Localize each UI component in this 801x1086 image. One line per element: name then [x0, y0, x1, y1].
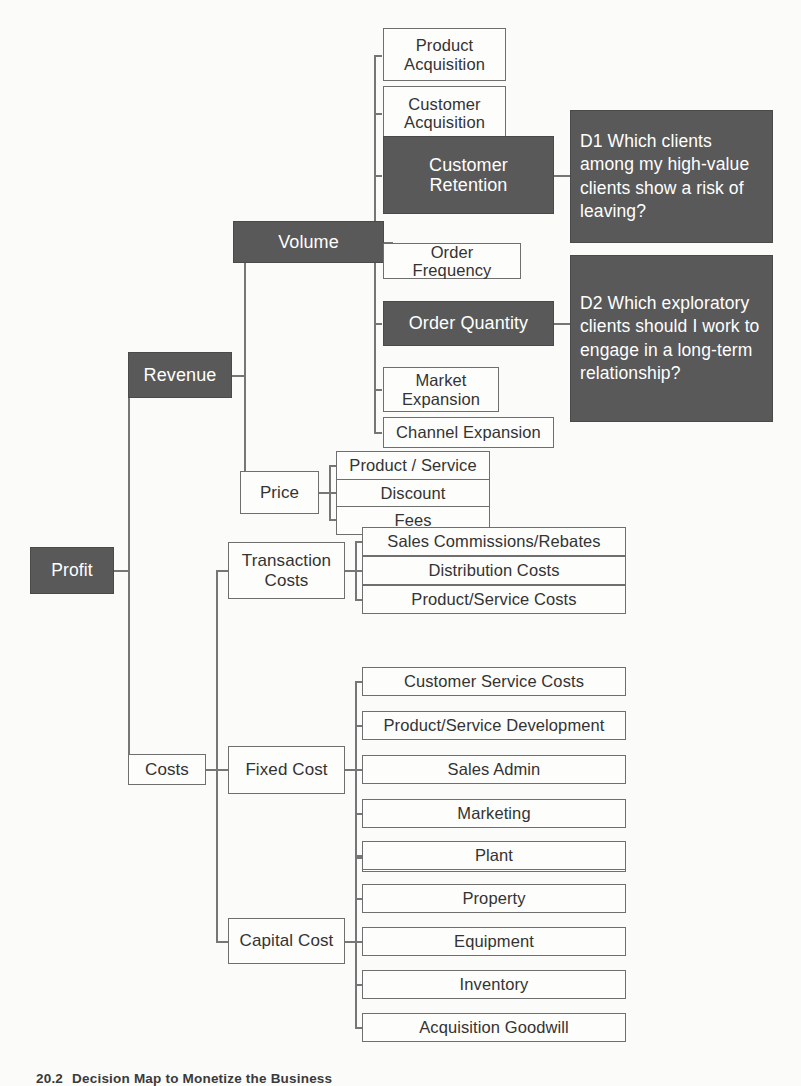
connector [329, 465, 331, 493]
node-plant[interactable]: Plant [362, 841, 626, 870]
connector [355, 541, 357, 571]
connector [128, 570, 130, 770]
connector [216, 570, 228, 572]
node-label: Customer Retention [424, 155, 513, 195]
node-label: Discount [376, 484, 451, 502]
node-customer-service-costs[interactable]: Customer Service Costs [362, 667, 626, 696]
note-d2[interactable]: D2 Which exploratory clients should I wo… [570, 255, 773, 422]
node-costs[interactable]: Costs [128, 754, 206, 785]
node-label: Product / Service [344, 456, 481, 474]
node-capital-cost[interactable]: Capital Cost [228, 918, 345, 964]
node-label: Product/Service Costs [406, 590, 581, 608]
node-label: Capital Cost [235, 931, 339, 950]
note-text: D1 Which clients among my high-value cli… [571, 130, 772, 224]
connector [374, 242, 376, 432]
node-label: Plant [470, 846, 518, 864]
node-customer-acquisition[interactable]: Customer Acquisition [383, 86, 506, 140]
connector [355, 570, 357, 600]
node-channel-expansion[interactable]: Channel Expansion [383, 417, 554, 448]
node-market-expansion[interactable]: Market Expansion [383, 367, 499, 412]
node-product-acquisition[interactable]: Product Acquisition [383, 28, 506, 81]
node-fixed-cost[interactable]: Fixed Cost [228, 746, 345, 794]
connector [374, 323, 382, 325]
node-label: Acquisition Goodwill [414, 1018, 574, 1036]
connector [216, 769, 228, 771]
node-property[interactable]: Property [362, 884, 626, 913]
node-label: Distribution Costs [423, 561, 564, 579]
node-label: Property [457, 889, 530, 907]
node-product-service-costs[interactable]: Product/Service Costs [362, 585, 626, 614]
connector [554, 323, 570, 325]
node-product-service[interactable]: Product / Service [336, 451, 490, 480]
node-order-quantity[interactable]: Order Quantity [383, 301, 554, 346]
node-inventory[interactable]: Inventory [362, 970, 626, 999]
connector [374, 389, 382, 391]
node-label: Price [255, 483, 304, 502]
node-acquisition-goodwill[interactable]: Acquisition Goodwill [362, 1013, 626, 1042]
node-label: Customer Acquisition [399, 95, 490, 132]
node-marketing[interactable]: Marketing [362, 799, 626, 828]
node-distribution-costs[interactable]: Distribution Costs [362, 556, 626, 585]
note-d1[interactable]: D1 Which clients among my high-value cli… [570, 110, 773, 243]
connector [374, 175, 382, 177]
node-customer-retention[interactable]: Customer Retention [383, 136, 554, 214]
node-label: Product Acquisition [399, 36, 490, 73]
figure-number: 20.2 [36, 1071, 63, 1086]
node-label: Costs [140, 760, 194, 779]
node-label: Profit [46, 561, 97, 581]
connector [554, 175, 570, 177]
connector [216, 570, 218, 770]
connector [374, 113, 382, 115]
node-label: Product/Service Development [379, 716, 610, 734]
node-label: Volume [273, 232, 344, 252]
node-volume[interactable]: Volume [233, 221, 384, 263]
connector [231, 375, 245, 377]
node-label: Sales Commissions/Rebates [382, 532, 605, 550]
node-label: Order Frequency [384, 243, 520, 280]
node-label: Equipment [449, 932, 539, 950]
connector [216, 941, 228, 943]
connector [374, 432, 382, 434]
node-label: Sales Admin [443, 760, 546, 778]
connector [374, 55, 376, 243]
node-label: Customer Service Costs [399, 672, 589, 690]
connector [329, 492, 331, 520]
connector [113, 570, 129, 572]
node-label: Market Expansion [397, 371, 485, 408]
figure-caption-text: Decision Map to Monetize the Business [72, 1071, 332, 1086]
node-label: Revenue [139, 365, 222, 385]
connector [128, 375, 130, 571]
node-discount[interactable]: Discount [336, 479, 490, 508]
node-label: Inventory [455, 975, 534, 993]
diagram-canvas: Profit Revenue Costs Volume Price Transa… [0, 0, 801, 1086]
note-text: D2 Which exploratory clients should I wo… [571, 292, 772, 386]
figure-caption: 20.2Decision Map to Monetize the Busines… [36, 1071, 332, 1086]
node-product-service-development[interactable]: Product/Service Development [362, 711, 626, 740]
node-label: Marketing [452, 804, 535, 822]
connector [216, 769, 218, 941]
node-sales-commissions-rebates[interactable]: Sales Commissions/Rebates [362, 527, 626, 556]
node-revenue[interactable]: Revenue [128, 352, 232, 398]
node-label: Order Quantity [404, 313, 533, 333]
node-profit[interactable]: Profit [30, 547, 114, 594]
node-order-frequency[interactable]: Order Frequency [383, 243, 521, 279]
node-transaction-costs[interactable]: Transaction Costs [228, 542, 345, 599]
node-label: Channel Expansion [391, 423, 546, 441]
node-label: Transaction Costs [237, 551, 336, 589]
connector [374, 55, 382, 57]
node-price[interactable]: Price [240, 471, 319, 514]
node-sales-admin[interactable]: Sales Admin [362, 755, 626, 784]
node-label: Fixed Cost [240, 760, 332, 779]
node-equipment[interactable]: Equipment [362, 927, 626, 956]
